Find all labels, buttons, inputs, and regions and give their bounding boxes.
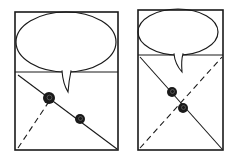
panel-1 [15, 12, 118, 150]
sightline-dashed [18, 100, 50, 148]
character-b [75, 114, 85, 124]
panel-2 [138, 9, 223, 150]
speech-balloon-tail [174, 54, 183, 72]
character-a [167, 87, 177, 97]
storyboard-canvas [0, 0, 241, 165]
speech-balloon-tail [62, 71, 71, 92]
character-b [178, 103, 188, 113]
speech-balloon [138, 9, 218, 55]
speech-balloon [16, 12, 116, 72]
character-a [43, 92, 55, 104]
storyboard-sketch [0, 0, 241, 165]
